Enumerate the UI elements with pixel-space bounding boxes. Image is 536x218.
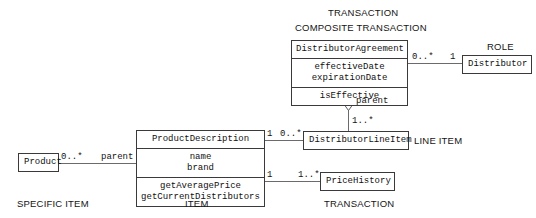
annotation-role: ROLE xyxy=(487,41,514,52)
class-product-description[interactable]: ProductDescription name brand getAverage… xyxy=(136,130,265,207)
attributes-product-description: name brand xyxy=(137,148,264,177)
class-name-distributor-agreement: DistributorAgreement xyxy=(292,41,407,58)
class-name-distributor: Distributor xyxy=(463,56,531,73)
class-distributor[interactable]: Distributor xyxy=(462,55,532,74)
edge-product-productdescription xyxy=(58,163,136,164)
attributes-distributor-agreement: effectiveDate expirationDate xyxy=(292,58,407,87)
attribute-effective-date: effectiveDate xyxy=(296,62,403,73)
operation-get-average-price: getAveragePrice xyxy=(141,181,260,192)
role-name-parent-top: parent xyxy=(356,96,388,106)
annotation-composite-transaction: COMPOSITE TRANSACTION xyxy=(295,22,427,33)
attribute-brand: brand xyxy=(141,163,260,174)
class-name-distributor-line-item: DistributorLineItem xyxy=(304,132,408,149)
attribute-name: name xyxy=(141,152,260,163)
class-price-history[interactable]: PriceHistory xyxy=(320,172,395,191)
class-distributor-line-item[interactable]: DistributorLineItem xyxy=(303,131,409,150)
annotation-transaction-bottom: TRANSACTION xyxy=(324,198,394,209)
edge-productdescription-lineitem xyxy=(265,140,304,141)
class-product[interactable]: Product xyxy=(18,153,59,172)
multiplicity-distributor-to-agreement: 1 xyxy=(450,52,455,62)
annotation-line-item: LINE ITEM xyxy=(414,135,462,146)
multiplicity-lineitem-to-productdescription: 0..* xyxy=(280,129,302,139)
multiplicity-productdescription-to-pricehistory: 1 xyxy=(267,170,272,180)
edge-agreement-distributor xyxy=(408,63,463,64)
class-distributor-agreement[interactable]: DistributorAgreement effectiveDate expir… xyxy=(291,40,408,106)
edge-productdescription-pricehistory xyxy=(265,181,321,182)
multiplicity-pricehistory-to-productdescription: 1..* xyxy=(298,170,320,180)
annotation-item: ITEM xyxy=(185,198,209,209)
class-name-product-description: ProductDescription xyxy=(137,131,264,148)
operations-distributor-agreement: isEffective xyxy=(292,87,407,105)
role-name-parent-bottom: parent xyxy=(101,152,133,162)
annotation-transaction-top: TRANSACTION xyxy=(328,7,398,18)
multiplicity-product-to-productdescription: 0..* xyxy=(61,152,83,162)
attribute-expiration-date: expirationDate xyxy=(296,73,403,84)
multiplicity-agreement-to-distributor: 0..* xyxy=(412,52,434,62)
multiplicity-lineitem-parent: 1..* xyxy=(352,116,374,126)
class-name-product: Product xyxy=(19,154,58,171)
uml-class-diagram: TRANSACTION COMPOSITE TRANSACTION ROLE D… xyxy=(0,0,536,218)
annotation-specific-item: SPECIFIC ITEM xyxy=(17,198,89,209)
multiplicity-productdescription-to-lineitem: 1 xyxy=(267,129,272,139)
class-name-price-history: PriceHistory xyxy=(321,173,394,190)
